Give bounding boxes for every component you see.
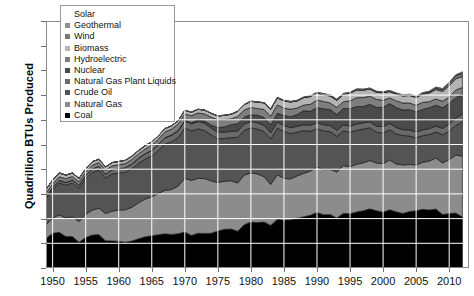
x-axis-tick-mark [284,268,285,272]
legend-item: Coal [65,110,171,121]
legend-swatch-icon [65,68,70,73]
x-axis-tick-label: 1965 [140,275,164,287]
x-axis-tick-mark [185,268,186,272]
x-axis-tick-mark [86,268,87,272]
legend-item: Geothermal [65,20,171,31]
x-axis-tick-mark [251,268,252,272]
legend-swatch-icon [65,34,70,39]
legend-item-label: Hydroelectric [74,54,127,65]
y-axis-tick-mark [41,194,46,195]
legend-item-label: Crude Oil [74,87,112,98]
legend-swatch-icon [65,90,70,95]
legend-item-label: Geothermal [74,20,121,31]
x-axis-tick-mark [383,268,384,272]
x-axis-tick-mark [317,268,318,272]
x-axis-tick-mark [350,268,351,272]
legend-item: Nuclear [65,65,171,76]
legend-item-label: Solar [74,9,95,20]
legend-item-label: Nuclear [74,65,105,76]
legend-swatch-icon [65,12,70,17]
legend-swatch-icon [65,113,70,118]
x-axis-tick-mark [152,268,153,272]
x-axis-tick-label: 2000 [371,275,395,287]
legend-item: Wind [65,31,171,42]
y-axis-tick-mark [41,268,46,269]
legend-item: Biomass [65,43,171,54]
x-axis-tick-label: 1955 [73,275,97,287]
legend-swatch-icon [65,102,70,107]
x-axis-tick-label: 1975 [206,275,230,287]
y-axis-title: Quadrillion BTUs Produced [23,21,35,251]
y-axis-tick-mark [41,243,46,244]
legend-swatch-icon [65,46,70,51]
legend-item: Crude Oil [65,87,171,98]
chart-figure: Quadrillion BTUs Produced 01020304050607… [0,0,474,296]
y-axis-tick-mark [41,219,46,220]
y-axis-tick-mark [41,95,46,96]
x-axis-tick-mark [119,268,120,272]
legend-swatch-icon [65,79,70,84]
legend-swatch-icon [65,23,70,28]
y-axis-tick-mark [41,145,46,146]
x-axis-tick-label: 2005 [404,275,428,287]
legend-item: Solar [65,9,171,20]
y-axis-tick-mark [41,21,46,22]
y-axis-tick-mark [41,46,46,47]
y-axis-tick-mark [41,120,46,121]
x-axis-tick-label: 2010 [437,275,461,287]
legend-item-label: Natural Gas [74,99,122,110]
legend-item-label: Wind [74,31,95,42]
x-axis-tick-label: 1970 [173,275,197,287]
legend-item-label: Natural Gas Plant Liquids [74,76,176,87]
legend-item: Natural Gas [65,99,171,110]
x-axis-tick-label: 1960 [106,275,130,287]
x-axis-tick-mark [218,268,219,272]
x-axis-tick-label: 1990 [305,275,329,287]
legend-item-label: Coal [74,110,93,121]
x-axis-tick-mark [449,268,450,272]
x-axis-tick-mark [53,268,54,272]
x-axis-tick-label: 1980 [239,275,263,287]
chart-legend: SolarGeothermalWindBiomassHydroelectricN… [60,5,175,122]
x-axis-tick-label: 1950 [40,275,64,287]
legend-item: Hydroelectric [65,54,171,65]
x-axis-tick-label: 1985 [272,275,296,287]
legend-swatch-icon [65,57,70,62]
y-axis-tick-mark [41,169,46,170]
legend-item-label: Biomass [74,43,109,54]
y-axis-tick-mark [41,70,46,71]
x-axis-tick-mark [416,268,417,272]
legend-item: Natural Gas Plant Liquids [65,76,171,87]
x-axis-tick-label: 1995 [338,275,362,287]
